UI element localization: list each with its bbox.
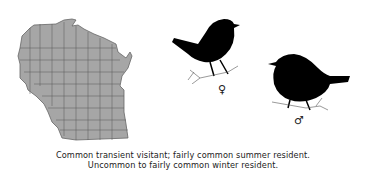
male-bird-silhouette xyxy=(266,52,352,114)
female-symbol: ♀ xyxy=(218,84,226,95)
female-bird-silhouette xyxy=(170,14,250,84)
species-status-caption: Common transient visitant; fairly common… xyxy=(0,150,366,170)
wisconsin-county-map xyxy=(16,16,136,144)
caption-line-1: Common transient visitant; fairly common… xyxy=(0,150,366,160)
caption-line-2: Uncommon to fairly common winter residen… xyxy=(0,160,366,170)
male-symbol: ♂ xyxy=(294,115,304,126)
